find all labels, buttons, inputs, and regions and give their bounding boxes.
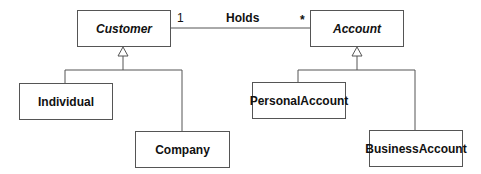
association-label: Holds xyxy=(226,11,259,25)
class-name: BusinessAccount xyxy=(365,142,466,156)
class-personal-account: PersonalAccount xyxy=(252,82,346,119)
generalization-triangle-customer xyxy=(118,47,128,56)
class-name: Account xyxy=(333,22,381,36)
multiplicity-account: * xyxy=(300,13,305,27)
class-name: Individual xyxy=(38,95,94,109)
class-company: Company xyxy=(135,131,230,168)
class-customer: Customer xyxy=(77,10,171,47)
class-name: Company xyxy=(155,143,210,157)
class-name: Customer xyxy=(96,22,152,36)
class-name: PersonalAccount xyxy=(250,94,349,108)
multiplicity-customer: 1 xyxy=(177,11,184,25)
class-individual: Individual xyxy=(19,83,113,120)
class-account: Account xyxy=(310,10,404,47)
class-business-account: BusinessAccount xyxy=(369,130,463,167)
generalization-triangle-account xyxy=(352,47,362,56)
